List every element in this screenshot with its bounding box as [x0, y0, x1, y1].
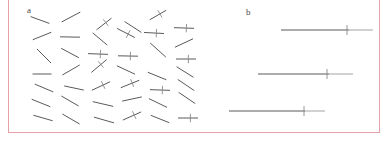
line-segment	[179, 92, 196, 103]
line-segment	[31, 17, 50, 24]
line-segment	[174, 28, 194, 29]
figure-root: a b	[0, 0, 386, 145]
panel-a: a	[8, 0, 201, 133]
line-segment	[150, 90, 170, 91]
line-segment	[62, 114, 79, 124]
line-segment	[93, 33, 108, 45]
line-segment	[64, 86, 84, 90]
line-segment	[150, 43, 166, 57]
line-segment	[62, 65, 79, 75]
line-segment	[88, 54, 108, 55]
line-segment	[117, 66, 135, 74]
line-segment	[122, 97, 142, 101]
segment-cross-tick	[158, 10, 162, 17]
line-segment	[177, 67, 194, 78]
line-segment	[121, 80, 140, 87]
line-segment	[151, 115, 170, 122]
line-segment	[92, 82, 110, 90]
panel-b: b	[201, 0, 380, 133]
line-segment	[148, 72, 167, 79]
line-segment	[117, 28, 135, 37]
line-segment	[94, 117, 114, 123]
line-segment	[37, 49, 51, 63]
line-segment	[33, 32, 52, 39]
line-segment	[175, 39, 193, 47]
line-segment	[61, 48, 79, 57]
segment-cross-tick	[98, 61, 103, 67]
line-segment	[33, 115, 52, 121]
panel-b-stimulus-layer	[201, 0, 380, 133]
segment-cross-tick	[101, 81, 105, 89]
line-segment	[123, 112, 141, 120]
line-segment	[178, 79, 195, 90]
line-segment	[32, 99, 51, 106]
line-segment	[149, 99, 167, 108]
segment-cross-tick	[126, 30, 130, 37]
line-segment	[61, 96, 78, 106]
panel-a-stimulus-layer	[8, 0, 201, 133]
line-segment	[91, 60, 106, 73]
line-segment	[125, 22, 142, 33]
line-segment	[93, 102, 113, 107]
line-segment	[150, 10, 166, 20]
segment-cross-tick	[103, 19, 108, 26]
line-segment	[62, 12, 81, 22]
line-segment	[35, 84, 53, 92]
line-segment	[144, 32, 164, 33]
